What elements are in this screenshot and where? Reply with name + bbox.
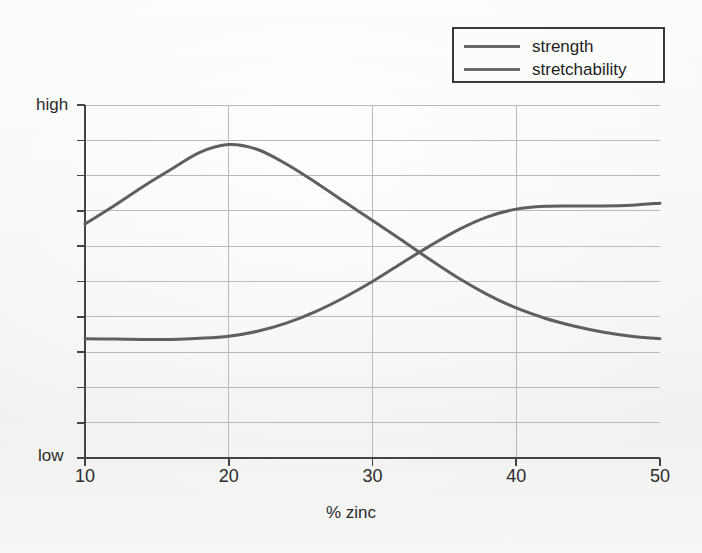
x-tick-label: 10 — [75, 466, 95, 487]
legend-item-strength: strength — [464, 35, 653, 57]
x-axis-title: % zinc — [0, 503, 702, 523]
line-chart: high low 1020304050 % zinc strength stre… — [0, 0, 702, 553]
legend-item-label: stretchability — [532, 61, 626, 78]
x-tick-label: 30 — [362, 466, 382, 487]
legend-line-icon — [464, 68, 520, 71]
chart-legend: strength stretchability — [452, 27, 665, 83]
legend-line-icon — [464, 45, 520, 48]
legend-item-label: strength — [532, 38, 593, 55]
x-tick-label: 20 — [219, 466, 239, 487]
y-axis-high-label: high — [36, 95, 68, 115]
y-axis-low-label: low — [38, 446, 64, 466]
legend-item-stretchability: stretchability — [464, 58, 653, 80]
x-tick-label: 50 — [650, 466, 670, 487]
x-tick-label: 40 — [506, 466, 526, 487]
